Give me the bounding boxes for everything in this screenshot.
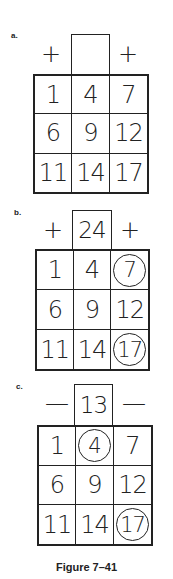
grid-cell: 7 [109, 75, 148, 114]
grid-cell: 14 [73, 329, 112, 370]
grid-cell: 12 [113, 465, 152, 506]
grid-cell: 1 [36, 250, 74, 290]
number-grid: 1 4 7 6 9 12 11 14 17 [33, 74, 149, 194]
grid-cell: 7 [113, 426, 152, 466]
grid-cell: 6 [38, 465, 76, 506]
panel-label: c. [16, 382, 23, 391]
circle-mark: 4 [78, 429, 111, 462]
top-answer-box: 13 [74, 384, 113, 426]
number-grid: 1 4 7 6 9 12 11 14 17 [37, 425, 153, 546]
circle-mark: 7 [113, 254, 146, 287]
grid-cell-circled: 17 [110, 329, 149, 370]
grid-cell: 17 [109, 153, 148, 193]
grid-cell-circled: 7 [110, 250, 149, 290]
grid-cell: 4 [71, 75, 110, 114]
grid-cell: 11 [34, 153, 72, 193]
grid-cell: 14 [75, 504, 114, 545]
top-answer-box: 24 [72, 210, 112, 250]
grid-cell: 1 [38, 426, 76, 466]
left-operator: + [41, 42, 61, 66]
grid-cell: 9 [73, 289, 112, 330]
top-answer-box [71, 34, 110, 75]
circle-mark: 17 [113, 333, 146, 366]
grid-cell: 4 [73, 250, 112, 290]
grid-cell: 11 [36, 329, 74, 370]
right-operator: + [120, 218, 140, 242]
figure-caption: Figure 7–41 [0, 561, 173, 573]
right-operator: — [122, 391, 142, 415]
grid-cell-circled: 4 [75, 426, 114, 466]
grid-cell: 6 [36, 289, 74, 330]
grid-cell: 1 [34, 75, 72, 114]
number-grid: 1 4 7 6 9 12 11 14 17 [35, 249, 150, 371]
panel-label: a. [11, 31, 18, 40]
grid-cell: 11 [38, 504, 76, 545]
grid-cell: 9 [75, 465, 114, 506]
grid-cell-circled: 17 [113, 504, 152, 545]
left-operator: + [43, 218, 63, 242]
panel-label: b. [14, 208, 21, 217]
right-operator: + [118, 42, 138, 66]
left-operator: — [45, 391, 65, 415]
grid-cell: 14 [71, 153, 110, 193]
grid-cell: 9 [71, 113, 110, 153]
grid-cell: 12 [110, 289, 149, 330]
circle-mark: 17 [116, 508, 149, 541]
grid-cell: 6 [34, 113, 72, 153]
grid-cell: 12 [109, 113, 148, 153]
